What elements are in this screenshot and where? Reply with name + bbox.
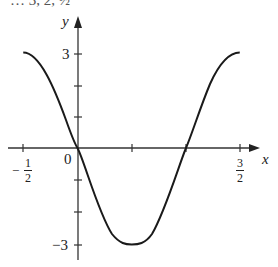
y-tick-label-3: 3 <box>62 47 70 62</box>
y-axis-arrow-icon <box>74 16 82 28</box>
fraction-denominator: 2 <box>25 172 31 184</box>
x-tick-label-neg-half: 1 2 <box>24 157 32 184</box>
x-axis-arrow-icon <box>249 144 260 152</box>
origin-label: 0 <box>64 152 72 167</box>
fraction-numerator: 3 <box>237 157 243 169</box>
plot-canvas <box>0 0 278 267</box>
y-axis-label: y <box>62 14 69 29</box>
fraction-numerator: 1 <box>25 157 31 169</box>
x-tick-label-three-halves: 3 2 <box>236 157 244 184</box>
x-axis-label: x <box>262 152 269 167</box>
y-tick-label-neg3: −3 <box>52 238 68 253</box>
x-tick-label-neg-half-sign: − <box>12 164 19 177</box>
fraction-denominator: 2 <box>237 172 243 184</box>
